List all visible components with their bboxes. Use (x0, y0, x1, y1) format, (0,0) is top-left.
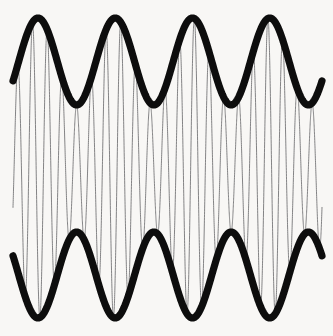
waveform-canvas (0, 0, 333, 336)
waveform-figure (0, 0, 333, 336)
